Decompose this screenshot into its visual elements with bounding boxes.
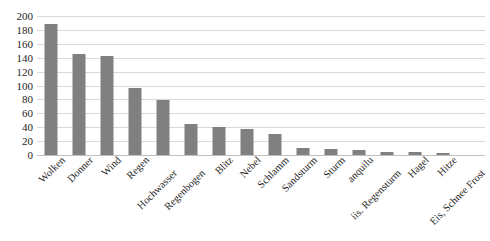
bar-slot: [205, 16, 233, 155]
bar-slot: [373, 16, 401, 155]
x-axis-tick-label: Blitz: [214, 155, 236, 177]
bar: [185, 124, 198, 155]
bar: [157, 100, 170, 155]
x-axis-tick-label: Regen: [125, 155, 151, 181]
x-axis-tick-label: Wolken: [37, 155, 67, 185]
y-axis-tick-label: 80: [22, 94, 33, 105]
bar-slot: [65, 16, 93, 155]
y-axis-tick-label: 200: [17, 11, 34, 22]
x-axis-tick-label: anquilu: [346, 155, 376, 185]
x-axis-tick-label-text: Wolken: [37, 155, 67, 185]
y-axis-tick-label: 60: [22, 108, 33, 119]
bar: [101, 56, 114, 155]
x-axis-tick-label: Hitze: [436, 155, 460, 179]
x-axis-labels: WolkenDonnerWindRegenHochwasserRegenboge…: [37, 155, 485, 241]
bar-slot: [401, 16, 429, 155]
bar: [241, 129, 254, 155]
x-axis-tick-label: Hagel: [406, 155, 431, 180]
x-axis-tick-label-text: Hagel: [406, 155, 431, 180]
x-axis-tick-label-text: Sturm: [322, 155, 348, 181]
bar: [45, 24, 58, 155]
y-axis-tick-label: 140: [17, 52, 34, 63]
bar: [269, 134, 282, 155]
x-axis-tick-label: Wind: [100, 155, 124, 179]
x-axis-tick-label-text: Wind: [100, 155, 124, 179]
y-axis: 020406080100120140160180200: [0, 16, 33, 155]
bar-slot: [261, 16, 289, 155]
bar-slot: [149, 16, 177, 155]
y-axis-tick-label: 160: [17, 38, 34, 49]
bar-chart: 020406080100120140160180200 WolkenDonner…: [0, 0, 490, 241]
x-axis-tick-label: Donner: [66, 155, 96, 185]
bar: [213, 127, 226, 155]
x-axis-tick-label: Sturm: [322, 155, 348, 181]
y-axis-tick-label: 40: [22, 122, 33, 133]
bar-slot: [37, 16, 65, 155]
y-axis-tick-label: 180: [17, 24, 34, 35]
bar-slot: [177, 16, 205, 155]
bar: [73, 54, 86, 155]
x-axis-tick-label-text: Donner: [66, 155, 96, 185]
y-axis-tick-label: 20: [22, 136, 33, 147]
x-axis-tick-label-text: anquilu: [346, 155, 376, 185]
bar-slot: [233, 16, 261, 155]
x-axis-tick-label: Eis, Schnee Frost: [428, 168, 487, 227]
bar-slot: [429, 16, 457, 155]
bar-slot: [289, 16, 317, 155]
y-axis-tick-label: 100: [17, 80, 34, 91]
bar: [129, 88, 142, 155]
bar-slot: [121, 16, 149, 155]
y-axis-tick-label: 120: [17, 66, 34, 77]
bar-slot: [317, 16, 345, 155]
bar-slot: [93, 16, 121, 155]
x-axis-tick-label-text: Hitze: [436, 155, 460, 179]
bar-slot: [457, 16, 485, 155]
y-axis-tick-label: 0: [28, 150, 34, 161]
bar-series: [37, 16, 485, 155]
x-axis-tick-label-text: Blitz: [214, 155, 236, 177]
bar-slot: [345, 16, 373, 155]
x-axis-tick-label-text: Eis, Schnee Frost: [428, 168, 487, 227]
x-axis-tick-label-text: Regen: [125, 155, 151, 181]
bar: [297, 148, 310, 155]
